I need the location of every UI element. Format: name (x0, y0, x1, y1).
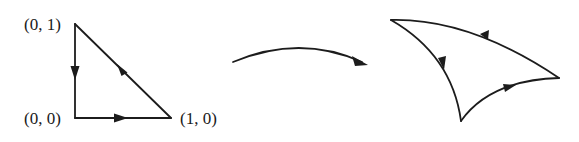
diagram-canvas: (0, 1) (0, 0) (1, 0) (0, 0, 579, 142)
mapping-arrow-head-icon (352, 56, 368, 66)
mapping-arrow (233, 48, 368, 66)
source-triangle: (0, 1) (0, 0) (1, 0) (24, 15, 217, 128)
image-triangle (391, 20, 559, 121)
curved-edge-top (391, 20, 559, 78)
curved-edge-bottom (461, 78, 559, 121)
curved-edge-left (391, 20, 461, 121)
vertex-label-1-0: (1, 0) (180, 109, 217, 128)
arrow-bottom-right-icon (503, 84, 516, 92)
vertex-label-0-1: (0, 1) (24, 15, 61, 34)
mapping-arrow-shaft (233, 48, 362, 62)
arrow-right-icon (114, 114, 128, 123)
vertex-label-0-0: (0, 0) (24, 109, 61, 128)
arrow-down-icon (71, 66, 80, 80)
